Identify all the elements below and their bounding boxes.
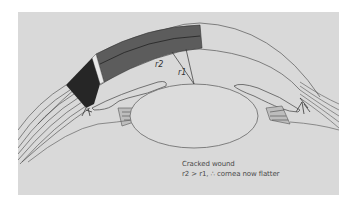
posterior-outline-left	[28, 120, 132, 162]
posterior-outline-right	[290, 122, 339, 130]
label-r2: r2	[155, 60, 163, 69]
ciliary-body-right	[266, 106, 290, 124]
caption-title: Cracked wound	[182, 159, 279, 169]
lens	[130, 84, 258, 148]
label-r1: r1	[178, 68, 186, 77]
figure-caption: Cracked wound r2 > r1, ∴ cornea now flat…	[182, 159, 279, 179]
caption-subtitle: r2 > r1, ∴ cornea now flatter	[182, 169, 279, 179]
eye-diagram-panel: r2 r1	[18, 12, 339, 195]
eye-cross-section	[18, 12, 339, 195]
trabecular-tuft-left	[82, 108, 92, 116]
